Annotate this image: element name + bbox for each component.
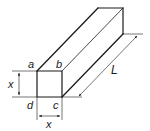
prism-diagram: a b c d x x L	[0, 0, 150, 131]
edge-top-right	[62, 8, 123, 71]
front-face	[37, 71, 62, 97]
label-d: d	[27, 99, 34, 111]
label-c: c	[53, 99, 59, 111]
label-length-L: L	[111, 63, 118, 77]
label-b: b	[56, 58, 62, 70]
label-a: a	[28, 58, 34, 70]
prism-body	[37, 8, 123, 97]
edge-top-left	[37, 8, 98, 71]
label-height-x: x	[7, 78, 14, 90]
label-width-x: x	[45, 118, 52, 130]
